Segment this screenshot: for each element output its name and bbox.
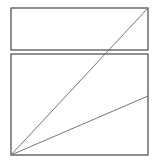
diagram-canvas xyxy=(0,0,155,164)
diagonal-line-steep xyxy=(11,8,148,155)
diagonal-line-shallow xyxy=(11,96,148,155)
top-panel-rectangle xyxy=(11,8,148,50)
